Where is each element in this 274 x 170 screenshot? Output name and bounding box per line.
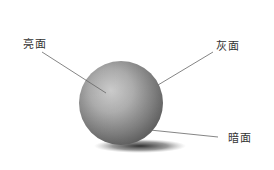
halftone-label: 灰面 — [216, 37, 239, 53]
shadow-label: 暗面 — [228, 129, 251, 145]
sphere-rim — [79, 61, 163, 145]
highlight-label: 亮面 — [23, 35, 46, 51]
sphere-shading-diagram: 亮面 灰面 暗面 — [0, 0, 274, 170]
halftone-leader-line — [158, 52, 213, 85]
shadow-leader-line — [150, 130, 218, 137]
